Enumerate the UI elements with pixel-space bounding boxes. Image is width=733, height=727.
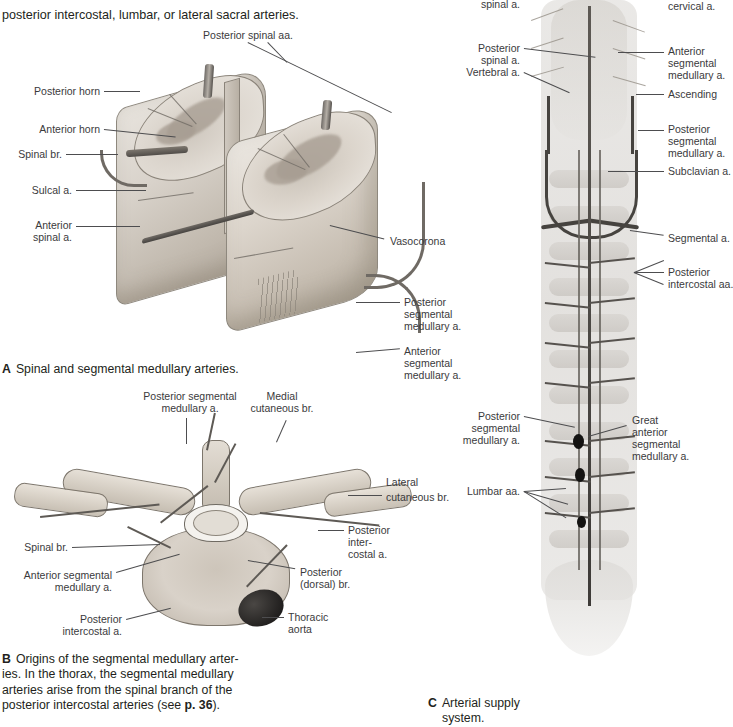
figure-b-caption-line1: Origins of the segmental medullary arter… (16, 652, 239, 666)
leader-c-5 (638, 130, 664, 131)
leader-b-1 (186, 418, 187, 444)
figure-b-caption-line4: posterior intercostal arteries (see p. 3… (2, 698, 242, 713)
leader-b-9 (262, 617, 284, 618)
figure-c-caption: CArterial supply system. (428, 696, 628, 727)
label-c-subclavian-a: Subclavian a. (668, 165, 731, 177)
label-c-post-seg-med-1: Posterior (668, 123, 710, 135)
label-c-ascending-cervical-1: Ascending (668, 88, 717, 100)
label-a-vasocorona: Vasocorona (390, 235, 445, 247)
figure-b-caption-line4-a: posterior intercostal arteries (see (2, 698, 184, 712)
label-b-post-intercostal-bl-1: Posterior (0, 613, 122, 625)
label-a-sulcal-a: Sulcal a. (0, 184, 72, 196)
label-b-post-intercostal-1: Posterior (348, 524, 390, 536)
intro-text-line1: posterior intercostal, lumbar, or latera… (2, 8, 299, 23)
label-c-lumbar-aa: Lumbar aa. (436, 485, 520, 497)
label-c-vertebral-a: Vertebral a. (440, 66, 520, 78)
label-b-ant-seg-med-2: medullary a. (0, 581, 112, 593)
label-a-posterior-spinal-aa: Posterior spinal aa. (188, 29, 308, 41)
leader-b-4 (318, 530, 344, 531)
leader-a-7 (76, 226, 140, 227)
great-anterior-medullary-origin-1 (573, 434, 584, 449)
leader-a-6 (76, 190, 146, 191)
label-c-anterior-spinal-a: spinal a. (440, 0, 520, 10)
label-b-thoracic-aorta-1: Thoracic (288, 611, 328, 623)
label-a-post-seg-med-1: Posterior (404, 296, 446, 308)
figure-c-caption-line1: Arterial supply (442, 696, 520, 710)
figure-a-illustration (108, 60, 428, 360)
left-medullary-vessel (100, 150, 147, 187)
figure-b-caption-line2: ies. In the thorax, the segmental medull… (2, 667, 242, 682)
leader-c-3 (618, 52, 664, 53)
spinal-cord-block-graphic (108, 78, 408, 328)
label-b-ant-seg-med-1: Anterior segmental (0, 569, 112, 581)
label-b-medial-cut-2: cutaneous br. (232, 402, 332, 414)
label-b-posterior-dorsal-2: (dorsal) br. (300, 578, 350, 590)
label-a-post-seg-med-2: segmental (404, 308, 452, 320)
label-a-anterior-spinal-a-2: spinal a. (0, 231, 72, 243)
leader-a-3 (104, 91, 140, 92)
label-a-ant-seg-med-1: Anterior (404, 345, 441, 357)
label-b-spinal-br: Spinal br. (0, 541, 68, 553)
figure-c-illustration (505, 0, 675, 660)
figure-a-caption-text: Spinal and segmental medullary arteries. (16, 362, 239, 376)
figure-a-caption: ASpinal and segmental medullary arteries… (2, 362, 239, 377)
label-c-ant-seg-med-1: Anterior (668, 45, 705, 57)
label-a-anterior-horn: Anterior horn (0, 123, 100, 135)
label-c-post-intercostal-aa-1: Posterior (668, 266, 710, 278)
label-c-post-seg-med-3: medullary a. (668, 147, 725, 159)
label-c-post-seg-med2-3: medullary a. (436, 434, 520, 446)
label-c-post-seg-med2-2: segmental (436, 422, 520, 434)
spinal-cord-in-canal (193, 510, 239, 536)
label-c-great-ant-3: segmental (632, 438, 680, 450)
figure-b-caption-letter: B (2, 652, 11, 666)
posterior-spinal-artery-right-c (599, 150, 601, 570)
label-c-post-seg-med2-1: Posterior (436, 410, 520, 422)
great-anterior-medullary-origin-2 (575, 468, 585, 482)
label-b-posterior-dorsal-1: Posterior (300, 566, 342, 578)
label-a-anterior-spinal-a-1: Anterior (0, 219, 72, 231)
leader-a-9 (356, 302, 400, 303)
posterior-spinal-artery-left-c (578, 150, 580, 570)
label-c-post-intercostal-aa-2: intercostal aa. (668, 278, 733, 290)
figure-c-caption-letter: C (428, 696, 437, 710)
leader-b-3 (348, 495, 382, 496)
label-a-posterior-horn: Posterior horn (0, 85, 100, 97)
figure-b-caption: BOrigins of the segmental medullary arte… (2, 652, 242, 713)
label-c-segmental-a: Segmental a. (668, 232, 730, 244)
label-b-medial-cut-1: Medial (232, 390, 332, 402)
vertebral-artery-right (631, 96, 634, 154)
figure-b-caption-page-ref: p. 36 (184, 698, 212, 712)
label-b-post-intercostal-bl-2: intercostal a. (0, 625, 122, 637)
label-b-post-intercostal-2: inter- (348, 536, 372, 548)
spinous-process (202, 440, 230, 510)
label-c-great-ant-4: medullary a. (632, 450, 689, 462)
label-c-great-ant-1: Great (632, 414, 658, 426)
figure-b-caption-line4-b: ). (213, 698, 221, 712)
label-c-posterior-spinal-1: Posterior (440, 42, 520, 54)
label-b-lateral-cut-1: Lateral (386, 476, 418, 488)
label-c-ant-seg-med-2: segmental (668, 57, 716, 69)
vertebral-artery-left (547, 96, 550, 154)
label-c-post-seg-med-2: segmental (668, 135, 716, 147)
leader-c-6 (608, 171, 664, 172)
label-b-post-intercostal-3: costal a. (348, 548, 387, 560)
leader-a-5 (66, 154, 118, 155)
figure-b-caption-line3: arteries arise from the spinal branch of… (2, 683, 242, 698)
label-b-thoracic-aorta-2: aorta (288, 623, 312, 635)
label-c-great-ant-2: anterior (632, 426, 668, 438)
label-c-ant-seg-med-3: medullary a. (668, 69, 725, 81)
label-a-spinal-br: Spinal br. (0, 148, 62, 160)
figure-a-caption-letter: A (2, 362, 11, 376)
leader-c-4 (636, 94, 664, 95)
label-c-ascending-cervical-2: cervical a. (668, 0, 715, 12)
label-a-post-seg-med-3: medullary a. (404, 320, 461, 332)
figure-c-caption-line2: system. (428, 711, 628, 726)
label-c-posterior-spinal-2: spinal a. (440, 54, 520, 66)
label-a-ant-seg-med-2: segmental (404, 357, 452, 369)
great-anterior-medullary-origin-3 (577, 516, 586, 528)
label-a-ant-seg-med-3: medullary a. (404, 369, 461, 381)
